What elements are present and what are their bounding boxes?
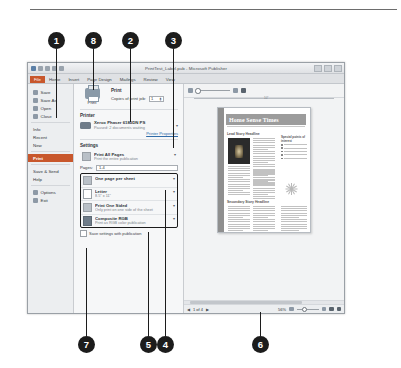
text-line [253, 156, 275, 157]
copies-stepper[interactable]: 1 ▲▼ [149, 96, 164, 103]
chevron-down-icon[interactable]: ▾ [173, 189, 175, 194]
zoom-slider[interactable] [196, 90, 230, 91]
pages-input[interactable]: 1-4 [96, 165, 178, 172]
chevron-down-icon[interactable]: ▾ [173, 203, 175, 208]
scrollbar-thumb[interactable] [190, 301, 302, 304]
text-line [253, 215, 275, 216]
printer-properties-link[interactable]: Printer Properties [80, 131, 178, 136]
copies-section: Print Copies of print job: 1 ▲▼ [111, 88, 178, 102]
setting-subtitle: 8.5" x 11" [95, 194, 170, 198]
backstage-nav[interactable]: SaveSave AsOpenCloseInfoRecentNewPrintSa… [28, 84, 74, 313]
window-buttons[interactable] [314, 65, 342, 72]
text-line [228, 192, 250, 193]
document-icon [82, 152, 91, 162]
setting-sheet-layout[interactable]: One page per sheet▾ [81, 174, 177, 187]
next-page-button[interactable]: ▶ [206, 307, 209, 312]
printer-icon [85, 88, 100, 99]
slider-knob[interactable] [195, 88, 201, 94]
zoom-out-icon[interactable] [289, 307, 294, 312]
text-line [253, 177, 275, 178]
multi-page-icon[interactable] [337, 307, 342, 312]
sidebar-item-open[interactable]: Open [28, 104, 73, 112]
fit-page-icon[interactable] [233, 88, 238, 93]
text-line [253, 162, 268, 163]
stepper-arrows-icon[interactable]: ▲▼ [159, 97, 162, 101]
horizontal-scrollbar[interactable] [184, 300, 344, 305]
chevron-down-icon[interactable]: ▾ [176, 123, 178, 128]
close-button[interactable] [334, 65, 342, 72]
text-line [284, 154, 307, 155]
exit-icon [33, 198, 38, 203]
sidebar-item-options[interactable]: Options [28, 188, 73, 196]
ribbon-tab-review[interactable]: Review [140, 77, 162, 83]
zoom-slider-bar[interactable] [297, 309, 319, 310]
ribbon-tab-home[interactable]: Home [45, 77, 64, 83]
print-settings-panel: Print Print Copies of print job: 1 ▲▼ Pr… [74, 84, 184, 313]
ribbon-tab-mailings[interactable]: Mailings [116, 77, 140, 83]
sidebar-item-print[interactable]: Print [28, 154, 73, 162]
zoom-in-icon[interactable] [322, 307, 327, 312]
text-line [253, 196, 275, 197]
text-line [228, 177, 243, 178]
settings-option-group[interactable]: One page per sheet▾Letter8.5" x 11"▾Prin… [80, 173, 178, 228]
text-line [253, 160, 275, 161]
sidebar-item-save-send[interactable]: Save & Send [28, 167, 73, 175]
text-line [253, 142, 275, 143]
callout-4: 4 [157, 336, 174, 353]
sidebar-item-recent[interactable]: Recent [28, 133, 73, 141]
text-line [253, 192, 275, 193]
callout-3: 3 [165, 32, 182, 49]
one-sided-icon [83, 203, 92, 213]
text-line [253, 149, 268, 150]
print-button[interactable]: Print [80, 88, 104, 105]
two-page-icon[interactable] [241, 88, 246, 93]
sidebar-item-save-as[interactable]: Save As [28, 96, 73, 104]
preview-page[interactable]: Home Sense Times Lead Story Headline Spe… [217, 107, 311, 233]
save-settings-checkbox[interactable]: Save settings with publication [80, 230, 178, 237]
sidebar-item-exit[interactable]: Exit [28, 196, 73, 204]
sheet-layout-icon [83, 176, 92, 186]
text-line [228, 228, 250, 229]
ribbon-tab-file[interactable]: File [30, 76, 45, 83]
text-column-5 [253, 206, 275, 233]
text-line [253, 194, 268, 195]
setting-subtitle: Only print on one side of the sheet [95, 208, 170, 212]
text-line [253, 185, 275, 186]
minimize-button[interactable] [314, 65, 322, 72]
preview-page-area[interactable]: Home Sense Times Lead Story Headline Spe… [184, 104, 344, 300]
page-range-selector[interactable]: Print All Pages Print the entire publica… [80, 150, 178, 163]
text-line [284, 144, 307, 145]
setting-paper-size[interactable]: Letter8.5" x 11"▾ [81, 187, 177, 201]
sidebar-heading: Special points of interest [281, 135, 307, 143]
sidebar-item-new[interactable]: New [28, 141, 73, 149]
sidebar-item-save[interactable]: Save [28, 88, 73, 96]
printer-heading: Printer [80, 113, 178, 118]
chevron-down-icon[interactable]: ▾ [174, 152, 176, 157]
chevron-down-icon[interactable]: ▾ [173, 216, 175, 221]
print-preview-pane: 10" Home Sense Times Lead Story Headline [184, 84, 344, 313]
zoom-slider-knob[interactable] [302, 307, 307, 312]
restore-button[interactable] [324, 65, 332, 72]
text-line [228, 232, 250, 233]
sidebar-item-info[interactable]: Info [28, 125, 73, 133]
setting-one-sided[interactable]: Print One SidedOnly print on one side of… [81, 200, 177, 214]
ribbon-tab-page-design[interactable]: Page Design [83, 77, 116, 83]
text-line [253, 170, 275, 171]
ribbon-tab-insert[interactable]: Insert [64, 77, 83, 83]
ribbon-tab-bar[interactable]: FileHomeInsertPage DesignMailingsReviewV… [28, 74, 344, 84]
ribbon-tab-view[interactable]: View [162, 77, 179, 83]
sidebar-item-label: Save As [41, 98, 57, 103]
checkbox-icon[interactable] [80, 230, 87, 237]
sidebar-item-close[interactable]: Close [28, 112, 73, 120]
fit-window-icon[interactable] [329, 307, 334, 312]
text-line [253, 230, 268, 231]
setting-color-mode[interactable]: Composite RGBPrint as RGB color publicat… [81, 214, 177, 228]
printer-selector[interactable]: Xerox Phaser 6180DN PS Paused: 2 documen… [80, 120, 178, 130]
bullet-item [281, 144, 307, 146]
chevron-down-icon[interactable]: ▾ [173, 176, 175, 181]
print-action-row: Print Print Copies of print job: 1 ▲▼ [80, 88, 178, 105]
prev-page-button[interactable]: ◀ [187, 307, 190, 312]
sidebar-item-help[interactable]: Help [28, 175, 73, 183]
nav-divider [31, 164, 70, 165]
view-icon[interactable] [188, 88, 193, 93]
